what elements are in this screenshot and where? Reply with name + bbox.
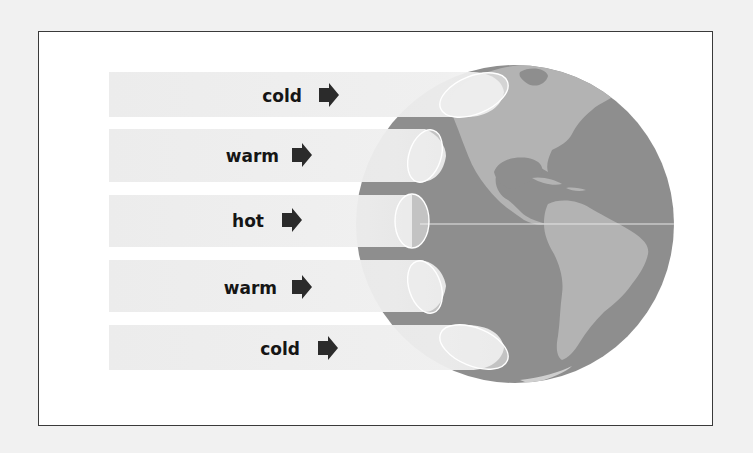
sunlight-diagram: cold warm hot warm cold xyxy=(0,0,753,453)
band-cold-north xyxy=(109,64,514,126)
band-label-cold-north: cold xyxy=(262,86,302,106)
band-impact-ellipse xyxy=(395,194,429,248)
band-cold-south xyxy=(109,316,514,378)
band-hot-equator xyxy=(109,194,429,248)
band-tube xyxy=(109,260,446,312)
band-warm-south xyxy=(109,256,449,317)
band-label-warm-south: warm xyxy=(224,278,277,298)
band-label-cold-south: cold xyxy=(260,339,300,359)
band-label-hot-equator: hot xyxy=(232,211,264,231)
band-label-warm-north: warm xyxy=(226,146,279,166)
